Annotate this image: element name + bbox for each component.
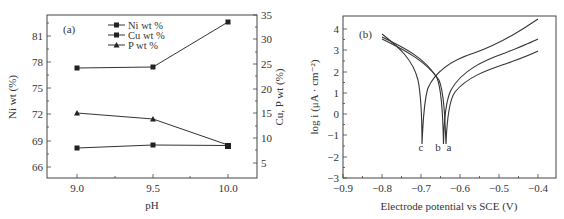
x-tick-label: −0.8 <box>372 182 392 194</box>
square-marker-icon <box>114 23 119 28</box>
x-tick-label: −0.6 <box>450 182 470 194</box>
y-tick-label: −1 <box>327 129 339 141</box>
y-tick-label: 69 <box>32 135 44 147</box>
y-tick-label: 75 <box>32 82 44 94</box>
y2-tick-label: 35 <box>261 9 273 21</box>
x-tick-label: 9.5 <box>146 182 160 194</box>
chart-b-y-labels: 4 3 2 1 0 −1 −2 −3 <box>327 23 339 184</box>
y-tick-label: −2 <box>327 151 339 163</box>
chart-b-curve-labels: c b a <box>419 141 452 153</box>
circle-marker-icon <box>114 33 119 38</box>
chart-a-x-axis-title: pH <box>145 199 159 211</box>
curve-label-a: a <box>447 141 452 153</box>
chart-b-panel-label: (b) <box>359 28 372 41</box>
y-tick-label: 0 <box>334 108 340 120</box>
chart-b-x-labels: −0.9 −0.8 −0.7 −0.6 −0.5 −0.4 <box>333 182 548 194</box>
chart-a-panel-label: (a) <box>63 23 76 36</box>
chart-b: 4 3 2 1 0 −1 −2 −3 −0.9 −0.8 −0.7 <box>308 16 556 213</box>
legend-item-p: P wt % <box>108 40 158 51</box>
y2-tick-label: 5 <box>261 157 267 169</box>
y-tick-label: 66 <box>32 161 44 173</box>
x-tick-label: −0.4 <box>528 182 548 194</box>
x-tick-label: 10.0 <box>218 182 238 194</box>
y-tick-label: 81 <box>32 30 43 42</box>
y-tick-label: 1 <box>334 87 340 99</box>
x-tick-label: 9.0 <box>70 182 84 194</box>
x-tick-label: −0.7 <box>411 182 431 194</box>
y2-tick-label: 30 <box>261 33 273 45</box>
legend-label: P wt % <box>128 40 158 51</box>
chart-a-x-labels: 9.0 9.5 10.0 <box>70 182 238 194</box>
chart-a-left-y-ticks <box>47 23 51 167</box>
series-p <box>74 110 228 145</box>
y2-tick-label: 15 <box>261 107 273 119</box>
chart-a-x-ticks <box>77 174 228 178</box>
x-tick-label: −0.5 <box>489 182 509 194</box>
chart-a-left-y-labels: 81 78 75 72 69 66 <box>32 30 44 173</box>
curve-b <box>382 37 538 144</box>
y2-tick-label: 25 <box>261 58 273 70</box>
curve-label-b: b <box>435 141 441 153</box>
chart-b-plot-frame <box>343 16 556 178</box>
y-tick-label: 4 <box>334 23 340 35</box>
chart-a-left-y-axis-title: Ni wt (%) <box>6 75 19 119</box>
chart-a-right-y-ticks <box>253 15 257 163</box>
chart-a-right-y-axis-title: Cu, P wt (%) <box>273 68 286 125</box>
figure: 81 78 75 72 69 66 35 30 25 20 <box>0 0 564 219</box>
y2-tick-label: 20 <box>261 83 273 95</box>
y-tick-label: 2 <box>334 66 340 78</box>
y2-tick-label: 10 <box>261 132 273 144</box>
curve-label-c: c <box>419 141 424 153</box>
chart-a-right-y-labels: 35 30 25 20 15 10 5 <box>261 9 273 169</box>
curve-c <box>382 19 538 144</box>
chart-b-x-axis-title: Electrode potential vs SCE (V) <box>381 200 518 213</box>
chart-b-y-axis-title: log i (μA · cm⁻²) <box>308 59 321 134</box>
chart-b-curves <box>382 19 538 144</box>
chart-a-legend: Ni wt % Cu wt % P wt % <box>108 20 165 51</box>
x-tick-label: −0.9 <box>333 182 353 194</box>
chart-b-y-ticks <box>343 29 347 178</box>
chart-a: 81 78 75 72 69 66 35 30 25 20 <box>6 9 286 211</box>
chart-b-x-ticks <box>343 174 538 178</box>
series-cu <box>75 143 232 151</box>
y-tick-label: 3 <box>334 44 340 56</box>
y-tick-label: 72 <box>32 108 43 120</box>
y-tick-label: 78 <box>32 56 44 68</box>
